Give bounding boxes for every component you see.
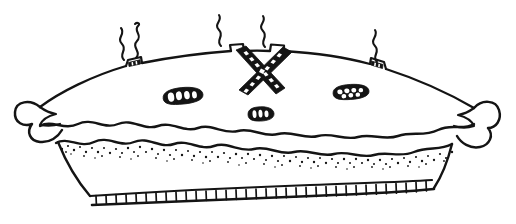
dome-arc-left bbox=[40, 66, 126, 107]
dish-right-wall bbox=[434, 144, 452, 188]
vent-slit-1-fill bbox=[129, 60, 141, 67]
steam-wisp-4 bbox=[261, 16, 265, 47]
dish-bottom-line bbox=[92, 189, 434, 205]
right-crust-lobe bbox=[454, 102, 500, 148]
dome-arc-left-mid bbox=[142, 51, 231, 63]
steam-wisp-5 bbox=[373, 30, 377, 62]
crimp-upper-wave bbox=[40, 122, 474, 138]
crimp-lower-wave bbox=[56, 140, 452, 156]
pie-dish bbox=[58, 142, 452, 205]
center-cross-slit bbox=[236, 46, 292, 95]
left-lobe-outline bbox=[15, 102, 62, 142]
oval-slit-right bbox=[332, 83, 369, 102]
oval-slit-left bbox=[162, 85, 204, 107]
dome-arc-right bbox=[386, 69, 474, 108]
right-lobe-outline bbox=[457, 102, 500, 148]
pie-illustration-canvas: Baked Pie whole baked pie with steam ris… bbox=[0, 0, 516, 224]
oval-slit-center bbox=[248, 106, 275, 122]
dish-flute-ticks bbox=[96, 181, 426, 204]
oval-slit-group bbox=[162, 83, 370, 122]
steam-wisp-2 bbox=[135, 23, 139, 58]
crimped-crust-edge bbox=[40, 122, 474, 156]
steam-wisp-3 bbox=[217, 15, 221, 46]
pie-drawing bbox=[0, 0, 516, 224]
steam-wisp-1 bbox=[120, 28, 124, 60]
dome-arc-right-mid bbox=[284, 51, 370, 64]
left-crust-lobe bbox=[15, 102, 62, 142]
